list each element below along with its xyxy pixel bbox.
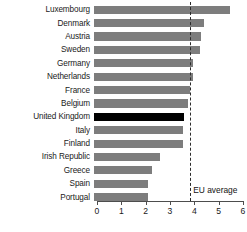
- bar-track: [94, 16, 247, 29]
- category-label: Austria: [0, 32, 94, 41]
- bar-track: [94, 124, 247, 137]
- bar-track: [94, 30, 247, 43]
- category-label: Spain: [0, 179, 94, 188]
- x-axis-tick: [146, 201, 147, 205]
- category-label: Portugal: [0, 193, 94, 202]
- category-label: Netherlands: [0, 72, 94, 81]
- bar-track: [94, 57, 247, 70]
- x-axis-tick: [97, 201, 98, 205]
- bar: [94, 19, 204, 27]
- x-axis-tick: [194, 201, 195, 205]
- bar-track: [94, 137, 247, 150]
- bar: [94, 113, 184, 121]
- bar-track: [94, 164, 247, 177]
- chart-row: Italy: [0, 124, 247, 137]
- category-label: Sweden: [0, 45, 94, 54]
- chart-row: France: [0, 83, 247, 96]
- bar-track: [94, 97, 247, 110]
- category-label: Greece: [0, 166, 94, 175]
- chart-rows: LuxembourgDenmarkAustriaSwedenGermanyNet…: [0, 3, 247, 204]
- bar: [94, 126, 183, 134]
- chart-row: Denmark: [0, 16, 247, 29]
- x-axis-tick-label: 3: [168, 206, 173, 216]
- category-label: United Kingdom: [0, 112, 94, 121]
- chart-row: Austria: [0, 30, 247, 43]
- bar: [94, 153, 160, 161]
- x-axis-tick-label: 5: [216, 206, 221, 216]
- bar-track: [94, 70, 247, 83]
- bar-track: [94, 150, 247, 163]
- chart-row: Sweden: [0, 43, 247, 56]
- x-axis-tick: [121, 201, 122, 205]
- category-label: Irish Republic: [0, 152, 94, 161]
- x-axis-tick-label: 6: [241, 206, 246, 216]
- bar: [94, 73, 193, 81]
- x-axis-tick-label: 0: [95, 206, 100, 216]
- x-axis-tick-label: 1: [119, 206, 124, 216]
- bar-track: [94, 3, 247, 16]
- x-axis-tick-label: 2: [143, 206, 148, 216]
- x-axis-tick: [219, 201, 220, 205]
- chart-row: United Kingdom: [0, 110, 247, 123]
- bar: [94, 99, 188, 107]
- eu-average-line: [190, 2, 191, 201]
- bar: [94, 180, 148, 188]
- chart-row: Irish Republic: [0, 150, 247, 163]
- category-label: France: [0, 86, 94, 95]
- bar-track: [94, 110, 247, 123]
- bar: [94, 46, 200, 54]
- category-label: Luxembourg: [0, 5, 94, 14]
- x-axis-tick: [170, 201, 171, 205]
- bar: [94, 59, 193, 67]
- bar: [94, 166, 152, 174]
- category-label: Denmark: [0, 19, 94, 28]
- chart-row: Netherlands: [0, 70, 247, 83]
- category-label: Finland: [0, 139, 94, 148]
- chart-row: Greece: [0, 164, 247, 177]
- bar-track: [94, 83, 247, 96]
- bar-track: [94, 43, 247, 56]
- category-label: Italy: [0, 126, 94, 135]
- bar: [94, 6, 230, 14]
- bar: [94, 140, 183, 148]
- x-axis-tick-label: 4: [192, 206, 197, 216]
- category-label: Belgium: [0, 99, 94, 108]
- chart-row: Belgium: [0, 97, 247, 110]
- horizontal-bar-chart: LuxembourgDenmarkAustriaSwedenGermanyNet…: [0, 0, 247, 232]
- eu-average-label: EU average: [193, 185, 237, 195]
- chart-row: Finland: [0, 137, 247, 150]
- bar: [94, 32, 201, 40]
- category-label: Germany: [0, 59, 94, 68]
- chart-row: Germany: [0, 57, 247, 70]
- chart-row: Luxembourg: [0, 3, 247, 16]
- bar: [94, 86, 190, 94]
- x-axis-tick: [243, 201, 244, 205]
